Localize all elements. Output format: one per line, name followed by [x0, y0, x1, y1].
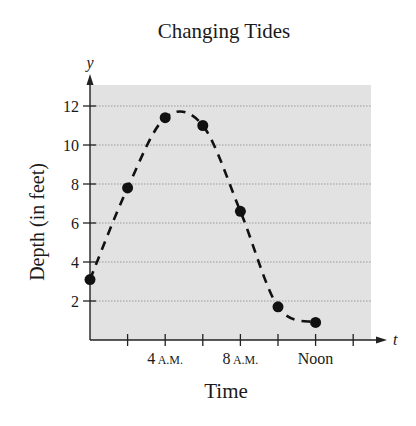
x-tick-label: 8 A.M. [223, 350, 259, 367]
y-tick-label: 10 [63, 137, 79, 154]
y-axis-label: Depth (in feet) [26, 163, 49, 281]
y-tick-label: 12 [63, 98, 79, 115]
data-point [197, 120, 208, 131]
data-point [310, 317, 321, 328]
x-axis-variable: t [393, 331, 398, 348]
tide-chart: Changing Tides 4 A.M.8 A.M.Noon 24681012… [0, 0, 416, 426]
y-tick-label: 6 [71, 215, 79, 232]
plot-area [90, 85, 371, 340]
y-axis-arrow-icon [87, 74, 94, 85]
x-tick-label: Noon [298, 350, 334, 367]
data-point [235, 206, 246, 217]
y-tick-label: 2 [71, 293, 79, 310]
y-tick-label: 8 [71, 176, 79, 193]
data-point [273, 301, 284, 312]
y-tick-label: 4 [71, 254, 79, 271]
x-tick-label: 4 A.M. [147, 350, 183, 367]
x-axis-label: Time [204, 379, 248, 403]
x-axis-arrow-icon [376, 337, 387, 344]
y-axis-variable: y [84, 54, 94, 72]
data-point [85, 274, 96, 285]
data-point [160, 112, 171, 123]
data-point [122, 182, 133, 193]
plot-background [90, 85, 371, 340]
chart-title: Changing Tides [158, 19, 290, 43]
